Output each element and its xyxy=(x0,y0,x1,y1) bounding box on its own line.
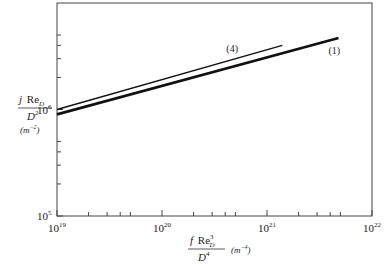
x-tick-label: 1020 xyxy=(153,221,172,234)
x-tick-label: 1021 xyxy=(258,221,277,234)
svg-text:j ReD: j ReD xyxy=(17,93,44,108)
y-label-units-exp: −2 xyxy=(30,124,37,130)
x-axis-ticks xyxy=(57,210,372,216)
svg-text:f Re3D: f Re3D xyxy=(190,233,215,249)
y-label-den: D xyxy=(26,110,35,122)
x-label-units: (m xyxy=(231,245,241,255)
x-label-units-close: ) xyxy=(247,245,251,255)
series-label-1: (1) xyxy=(329,45,341,57)
x-label-exp: 3 xyxy=(210,233,214,241)
x-label-den-exp: 4 xyxy=(206,250,210,258)
x-tick-label: 1022 xyxy=(363,221,382,234)
y-axis-tick-labels: 105106 xyxy=(37,103,52,223)
y-label-units-close: ) xyxy=(36,125,40,135)
svg-text:D4: D4 xyxy=(197,250,210,263)
y-label-re: Re xyxy=(27,93,39,105)
y-label-units: (m xyxy=(20,125,30,135)
y-axis-ticks xyxy=(57,35,63,216)
svg-text:(m−2): (m−2) xyxy=(20,124,40,135)
y-label-sub: D xyxy=(38,100,44,108)
y-label-j: j xyxy=(17,93,22,105)
y-label-den-exp: 2 xyxy=(35,109,39,117)
y-tick-label: 105 xyxy=(37,209,52,222)
x-label-re: Re xyxy=(198,234,210,246)
x-label-f: f xyxy=(190,234,195,246)
svg-text:(m−4): (m−4) xyxy=(231,244,251,255)
data-series: (4)(1) xyxy=(57,38,340,114)
x-label-den: D xyxy=(197,251,206,263)
x-label-sub: D xyxy=(209,241,215,249)
x-axis-label: f Re3D D4 (m−4) xyxy=(188,233,251,263)
plot-frame xyxy=(57,3,372,216)
series-line-4 xyxy=(57,45,282,109)
x-label-units-exp: −4 xyxy=(241,244,248,250)
series-line-1 xyxy=(57,38,339,114)
x-tick-label: 1019 xyxy=(48,221,67,234)
x-axis-tick-labels: 1019102010211022 xyxy=(48,221,382,234)
log-log-chart: 1019102010211022 105106 (4)(1) j ReD D2 … xyxy=(0,0,388,264)
svg-text:D2: D2 xyxy=(26,109,39,122)
series-label-4: (4) xyxy=(226,43,238,55)
